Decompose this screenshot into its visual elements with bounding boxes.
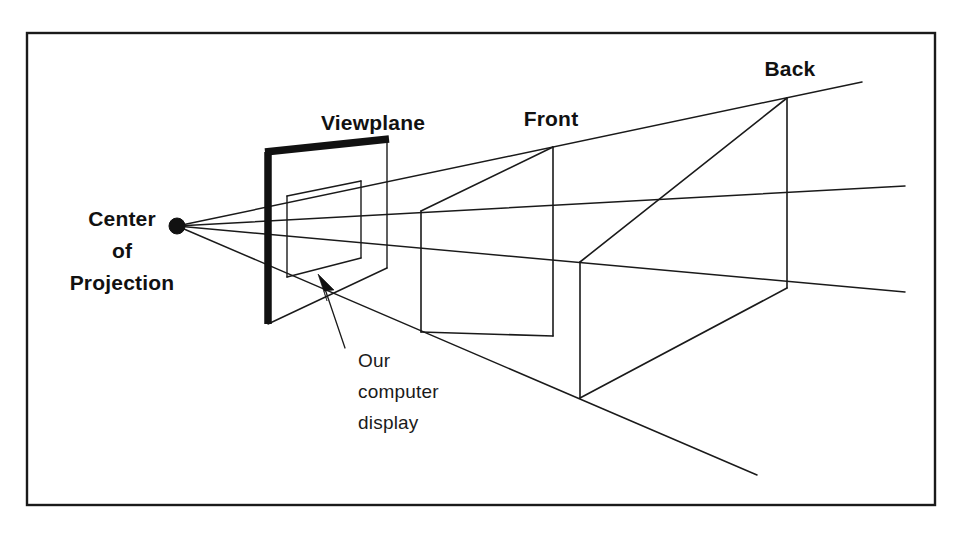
front-plane — [421, 147, 553, 336]
back-plane-top-edge — [580, 98, 787, 262]
label-our-computer-display: Our computer display — [358, 350, 439, 433]
figure-border — [27, 33, 935, 505]
display-label-line1: Our — [358, 350, 391, 371]
projection-ray-upper-mid — [177, 186, 905, 226]
front-label: Front — [524, 107, 579, 130]
cop-label-line2: of — [112, 239, 133, 262]
projection-ray-lower-mid — [177, 226, 905, 292]
display-label-line3: display — [358, 412, 419, 433]
display-bottom-edge — [287, 258, 361, 277]
front-plane-top-edge — [421, 147, 553, 211]
center-of-projection-dot — [169, 218, 185, 234]
cop-label-line1: Center — [88, 207, 156, 230]
front-plane-bottom-edge — [421, 332, 553, 336]
back-label: Back — [764, 57, 815, 80]
back-plane — [580, 98, 787, 398]
display-label-line2: computer — [358, 381, 439, 402]
cop-label-line3: Projection — [70, 271, 175, 294]
viewplane-label: Viewplane — [321, 111, 425, 134]
back-plane-bottom-edge — [580, 288, 787, 398]
figure-root: Center of Projection Viewplane Front Bac… — [0, 0, 963, 537]
display-top-edge — [287, 181, 361, 196]
callout-leader-line — [324, 286, 345, 348]
viewplane-near-top-edge — [265, 139, 389, 152]
display-callout — [318, 274, 345, 348]
projection-ray-group — [177, 82, 905, 475]
perspective-projection-diagram: Center of Projection Viewplane Front Bac… — [0, 0, 963, 537]
label-center-of-projection: Center of Projection — [70, 207, 175, 294]
